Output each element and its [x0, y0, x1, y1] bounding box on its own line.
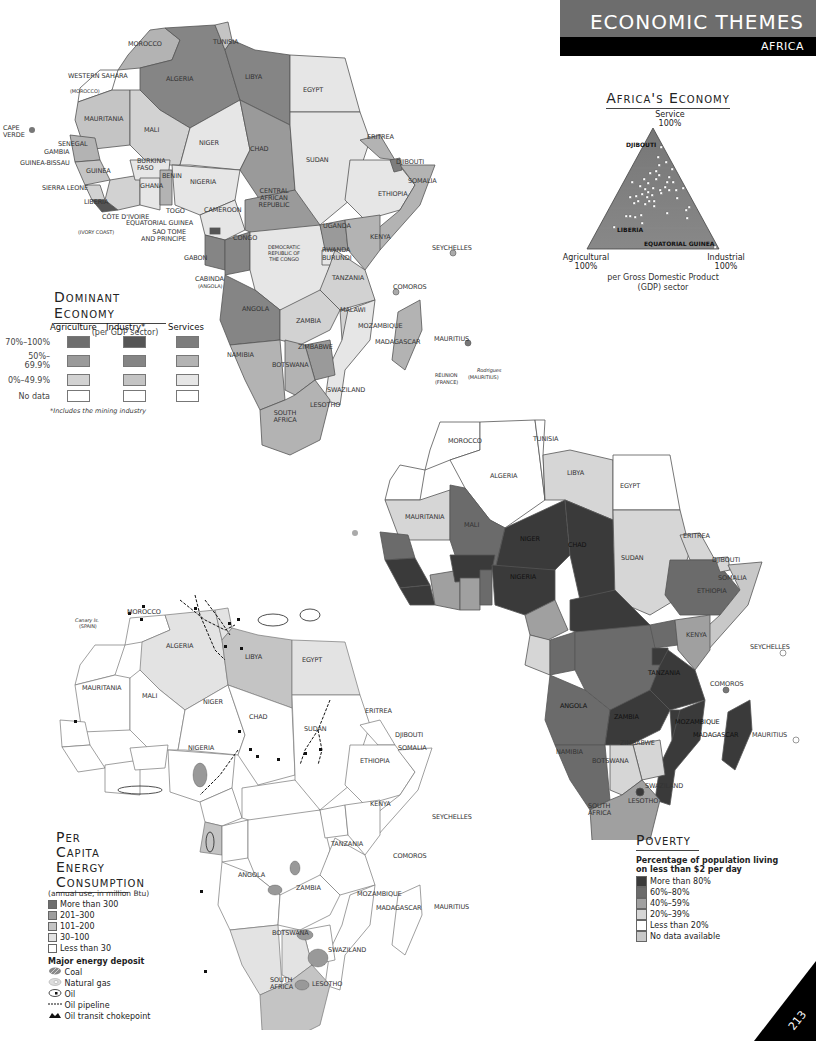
- map1-label-sudan: SUDAN: [306, 156, 329, 164]
- map1-label-mozambique: MOZAMBIQUE: [358, 322, 403, 330]
- map3-label-mozambique: MOZAMBIQUE: [357, 890, 402, 898]
- map1-label-libya: LIBYA: [245, 73, 262, 81]
- swatch-ind-high: [123, 336, 146, 348]
- agricultural-label: Agricultural: [561, 253, 611, 262]
- energy-swatch-300plus: [48, 900, 57, 909]
- map1-label-rwanda: RWANDA: [322, 246, 350, 254]
- poverty-swatch-nodata: [636, 931, 647, 942]
- map1-label-guinea: GUINEA: [86, 167, 111, 175]
- map3-label-somalia: SOMALIA: [398, 744, 427, 752]
- deposit-item: Oil pipeline: [48, 1000, 150, 1011]
- energy-item-label: More than 300: [60, 900, 118, 909]
- poverty-item: 40%–59%: [636, 898, 816, 909]
- map1-label-seychelles: SEYCHELLES: [432, 244, 472, 252]
- map1-label-somalia: SOMALIA: [408, 177, 437, 185]
- annotation-djibouti: DJIBOUTI: [626, 141, 656, 149]
- energy-legend: Per Capita Energy Consumption: [56, 830, 216, 893]
- map2-label-ethiopia: ETHIOPIA: [697, 587, 726, 595]
- map2-label-madagascar: MADAGASCAR: [693, 731, 738, 739]
- map2-label-nigeria: NIGERIA: [510, 573, 536, 581]
- map1-label-ghana: GHANA: [140, 182, 163, 190]
- map1-label-sierra-leone: SIERRA LEONE: [42, 184, 88, 192]
- col-services: Services: [162, 322, 212, 332]
- map2-label-morocco: MOROCCO: [448, 437, 482, 445]
- deposit-label-oil-pipeline: Oil pipeline: [65, 1001, 110, 1010]
- poverty-item-label: 60%–80%: [650, 888, 690, 897]
- energy-deposit-title: Major energy deposit: [48, 957, 150, 966]
- map1-label-burundi: BURUNDI: [322, 254, 352, 262]
- map1-label-mauritania: MAURITANIA: [84, 115, 123, 123]
- map1-label-car: CENTRAL AFRICAN REPUBLIC: [256, 188, 292, 209]
- swatch-ag-high: [67, 336, 90, 348]
- oil-transit-chokepoint-icon: [48, 1011, 62, 1019]
- map3-label-chad: CHAD: [249, 713, 267, 721]
- swatch-ind-none: [123, 390, 146, 402]
- map1-label-france-paren: (FRANCE): [435, 379, 458, 385]
- map1-label-sao-tome: SAO TOME AND PRINCIPE: [138, 229, 186, 243]
- ternary-plot: DJIBOUTI LIBERIA EQUATORIAL GUINEA: [585, 126, 725, 251]
- page-header: ECONOMIC THEMES AFRICA: [560, 0, 816, 56]
- map2-label-mali: MALI: [464, 521, 479, 529]
- deposit-label-oil: Oil: [65, 990, 76, 999]
- map1-label-namibia: NAMIBIA: [227, 351, 254, 359]
- energy-swatch-30-100: [48, 933, 57, 942]
- map2-label-chad: CHAD: [568, 541, 586, 549]
- map1-label-drc: DEMOCRATIC REPUBLIC OF THE CONGO: [264, 244, 304, 262]
- swatch-serv-low: [176, 374, 199, 386]
- map1-label-djibouti: DJIBOUTI: [396, 158, 424, 166]
- map2-label-sudan: SUDAN: [621, 554, 644, 562]
- map1-label-gabon: GABON: [184, 254, 207, 262]
- map2-label-lesotho: LESOTHO: [628, 797, 658, 805]
- map2-label-niger: NIGER: [520, 535, 540, 543]
- africas-economy-title: Africa's Economy: [598, 88, 738, 109]
- map3-label-niger: NIGER: [203, 698, 223, 706]
- agricultural-value: 100%: [561, 262, 611, 271]
- map1-label-kenya: KENYA: [370, 233, 391, 241]
- map1-label-tanzania: TANZANIA: [332, 274, 364, 282]
- map3-label-lesotho: LESOTHO: [312, 980, 342, 988]
- map1-label-tunisia: TUNISIA: [213, 38, 238, 46]
- map1-label-niger: NIGER: [199, 139, 219, 147]
- poverty-item-label: No data available: [650, 932, 720, 941]
- map1-label-swaziland: SWAZILAND: [327, 386, 365, 394]
- swatch-ind-low: [123, 374, 146, 386]
- map3-label-egypt: EGYPT: [302, 656, 322, 664]
- map2-label-zimbabwe: ZIMBABWE: [620, 739, 655, 747]
- map2-label-south-africa: SOUTH AFRICA: [588, 803, 620, 817]
- deposit-item: Natural gas: [48, 978, 150, 989]
- map1-label-gambia: GAMBIA: [44, 148, 69, 156]
- map3-label-eritrea: ERITREA: [365, 707, 392, 715]
- map1-label-cabinda: CABINDA: [195, 275, 224, 283]
- map2-label-swaziland: SWAZILAND: [645, 782, 683, 790]
- map1-label-ivory-coast: (IVORY COAST): [78, 229, 114, 235]
- dominant-economy-grid: Agriculture Industry* Services 70%–100% …: [4, 322, 212, 415]
- map2-label-mozambique: MOZAMBIQUE: [675, 718, 720, 726]
- ternary-left-label: Agricultural 100%: [561, 253, 611, 271]
- energy-item: More than 300: [48, 899, 150, 910]
- map1-label-guinea-bissau: GUINEA-BISSAU: [20, 159, 70, 167]
- energy-subtitle: (annual use, in million Btu): [48, 888, 150, 899]
- swatch-serv-none: [176, 390, 199, 402]
- map1-label-rodrigues: Rodrigues: [477, 367, 501, 373]
- energy-title-line1: Per Capita: [56, 830, 128, 860]
- map3-label-tanzania: TANZANIA: [331, 840, 363, 848]
- poverty-item: Less than 20%: [636, 920, 816, 931]
- map3-label-djibouti: DJIBOUTI: [395, 731, 423, 739]
- deposit-label-natural-gas: Natural gas: [65, 979, 111, 988]
- row-label-no-data: No data: [4, 392, 50, 401]
- map1-label-chad: CHAD: [250, 145, 268, 153]
- poverty-subtitle-line1: Percentage of population living: [636, 856, 816, 865]
- deposit-item: Coal: [48, 967, 150, 978]
- map1-label-mauritius: MAURITIUS: [434, 335, 469, 343]
- annotation-equatorial-guinea: EQUATORIAL GUINEA: [644, 240, 715, 247]
- map3-label-libya: LIBYA: [245, 653, 262, 661]
- map1-label-cape-verde: CAPE VERDE: [3, 125, 29, 139]
- map2-label-eritrea: ERITREA: [683, 532, 710, 540]
- map3-label-algeria: ALGERIA: [166, 642, 193, 650]
- map1-label-madagascar: MADAGASCAR: [375, 338, 420, 346]
- poverty-swatch-40-59: [636, 898, 647, 909]
- ternary-caption: per Gross Domestic Product (GDP) sector: [598, 273, 728, 293]
- poverty-swatch-60-80: [636, 887, 647, 898]
- swatch-ag-mid: [67, 355, 90, 367]
- map3-label-nigeria: NIGERIA: [188, 744, 214, 752]
